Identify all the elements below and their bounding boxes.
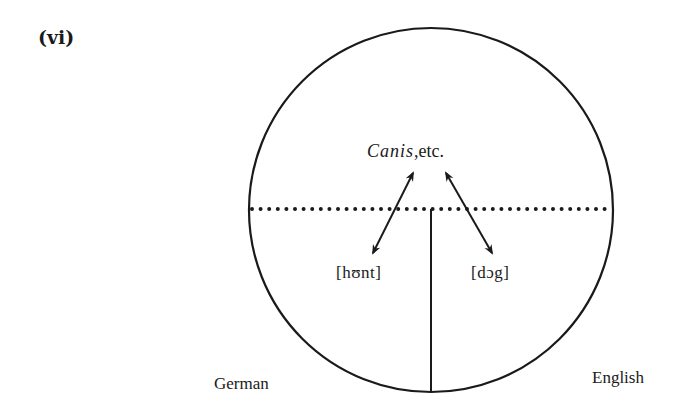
german-language-label: German [214, 375, 269, 392]
arrow-concept-to-hunt [373, 173, 413, 253]
german-form-label: [hʊnt] [336, 264, 381, 281]
arrow-concept-to-dog [446, 173, 492, 253]
concept-label: Canis,etc. [367, 142, 444, 160]
concept-italic: Canis [367, 141, 414, 161]
english-form-label: [dɔg] [471, 264, 509, 281]
semantic-field-diagram [0, 0, 684, 419]
english-language-label: English [592, 369, 644, 386]
concept-rest: ,etc. [414, 141, 444, 161]
